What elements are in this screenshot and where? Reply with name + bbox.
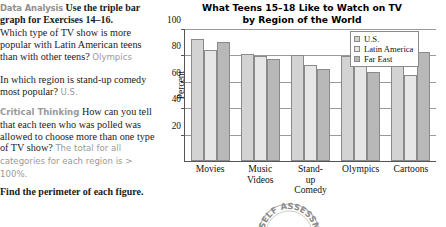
bar-far-east-4 <box>417 52 430 161</box>
legend-label-0: U.S. <box>364 34 379 44</box>
exercise-lead: Data Analysis Use the triple bar graph f… <box>0 2 160 26</box>
bar-far-east-3 <box>367 72 380 161</box>
chart-title: What Teens 15–18 Like to Watch on TV by … <box>158 2 446 25</box>
bar-u-s--3 <box>341 56 354 161</box>
chart-title-line-2: by Region of the World <box>158 14 446 26</box>
y-tick-label-40: 40 <box>172 94 181 104</box>
legend-item-u-s-: U.S. <box>354 34 413 44</box>
self-assessment-badge: SELF ASSESSMENT <box>256 201 322 227</box>
y-tick-label-100: 100 <box>167 15 181 25</box>
lead-instruction-line1: Use the triple bar <box>66 2 141 13</box>
bar-latin-america-1 <box>254 56 267 161</box>
bar-u-s--2 <box>291 55 304 161</box>
bar-group-stand-up-comedy: Stand-up Comedy <box>285 30 335 161</box>
legend-item-latin-america: Latin America <box>354 44 413 54</box>
bar-u-s--1 <box>241 54 254 161</box>
chart-legend: U.S.Latin AmericaFar East <box>350 31 419 67</box>
data-analysis-label: Data Analysis <box>0 3 63 13</box>
legend-label-1: Latin America <box>364 44 413 54</box>
exercise-15-answer: U.S. <box>61 87 78 97</box>
exercise-16: Critical Thinking How can you tell that … <box>0 106 156 181</box>
legend-swatch-icon-0 <box>354 36 360 42</box>
legend-item-far-east: Far East <box>354 54 413 64</box>
lead-instruction-line2: graph for Exercises 14–16. <box>0 14 113 25</box>
y-tick-label-80: 80 <box>172 41 181 51</box>
bar-u-s--4 <box>391 59 404 161</box>
exercise-15: In which region is stand-up comedy most … <box>0 74 156 99</box>
x-axis-line <box>184 161 436 162</box>
footer-instruction: Find the perimeter of each figure. <box>0 186 180 197</box>
worksheet-text-column: Data Analysis Use the triple bar graph f… <box>0 0 158 200</box>
legend-label-2: Far East <box>364 54 392 64</box>
bar-group-movies: Movies <box>185 30 235 161</box>
exercise-14: Which type of TV show is more popular wi… <box>0 27 156 63</box>
x-axis-label-4: Cartoons <box>394 164 429 175</box>
y-tick-label-20: 20 <box>172 120 181 130</box>
bar-group-music-videos: Music Videos <box>235 30 285 161</box>
bar-chart: What Teens 15–18 Like to Watch on TV by … <box>158 0 446 200</box>
x-axis-label-3: Olympics <box>342 164 379 175</box>
bar-far-east-2 <box>317 69 330 161</box>
x-axis-label-0: Movies <box>196 164 225 175</box>
x-axis-label-1: Music Videos <box>247 164 274 185</box>
bar-latin-america-2 <box>304 65 317 161</box>
legend-swatch-icon-1 <box>354 46 360 52</box>
bar-u-s--0 <box>191 39 204 161</box>
legend-swatch-icon-2 <box>354 56 360 62</box>
x-axis-label-2: Stand-up Comedy <box>294 164 327 196</box>
bar-far-east-0 <box>217 42 230 161</box>
critical-thinking-label: Critical Thinking <box>0 107 79 117</box>
exercise-14-answer: Olympics <box>92 52 132 62</box>
chart-title-line-1: What Teens 15–18 Like to Watch on TV <box>158 2 446 14</box>
bar-latin-america-0 <box>204 50 217 161</box>
y-tick-label-60: 60 <box>172 68 181 78</box>
bar-latin-america-4 <box>404 75 417 161</box>
bar-latin-america-3 <box>354 55 367 161</box>
bar-far-east-1 <box>267 59 280 161</box>
